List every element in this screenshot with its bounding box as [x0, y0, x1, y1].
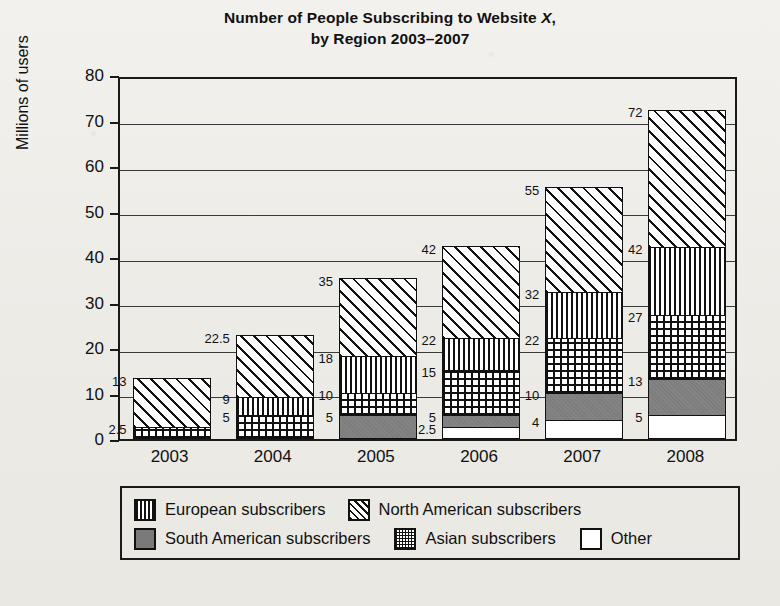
bar-2004: [236, 75, 314, 439]
value-label-2006-22: 22: [396, 333, 436, 348]
gridline: [120, 215, 735, 216]
legend-item-asian[interactable]: Asian subscribers: [394, 528, 555, 550]
legend-label-southamerican: South American subscribers: [165, 529, 370, 548]
y-axis-tick-80: 80: [58, 66, 104, 86]
bar-2003: [133, 75, 211, 439]
bar-segment-2008-northamerican: [648, 110, 726, 248]
gridline: [120, 306, 735, 307]
value-label-2007-22: 22: [499, 333, 539, 348]
legend-row-2: South American subscribersAsian subscrib…: [134, 524, 726, 553]
x-axis-tick-2008: 2008: [634, 447, 737, 467]
y-axis-tick-50: 50: [58, 203, 104, 223]
y-axis-tick-40: 40: [58, 248, 104, 268]
value-label-2007-4: 4: [499, 415, 539, 430]
chart-legend: European subscribersNorth American subsc…: [120, 486, 740, 560]
value-label-2003-13: 13: [87, 374, 127, 389]
legend-label-other: Other: [611, 529, 652, 548]
x-axis-tick-2006: 2006: [428, 447, 531, 467]
legend-row-1: European subscribersNorth American subsc…: [134, 495, 726, 524]
legend-label-european: European subscribers: [165, 500, 326, 519]
y-axis-tick-30: 30: [58, 294, 104, 314]
value-label-2005-5: 5: [293, 410, 333, 425]
legend-item-northamerican[interactable]: North American subscribers: [348, 499, 582, 521]
legend-swatch-other-icon: [580, 528, 602, 550]
legend-item-southamerican[interactable]: South American subscribers: [134, 528, 370, 550]
value-label-2006-15: 15: [396, 365, 436, 380]
value-label-2005-18: 18: [293, 351, 333, 366]
x-axis-tick-2004: 2004: [221, 447, 324, 467]
gridline: [120, 261, 735, 262]
y-axis-tick-20: 20: [58, 339, 104, 359]
value-label-2008-5: 5: [602, 410, 642, 425]
bar-2005: [339, 75, 417, 439]
value-label-2007-10: 10: [499, 388, 539, 403]
y-axis-tick-70: 70: [58, 112, 104, 132]
value-label-2006-42: 42: [396, 242, 436, 257]
y-axis-title: Millions of users: [14, 35, 32, 150]
value-label-2004-9: 9: [190, 392, 230, 407]
legend-swatch-european-icon: [134, 499, 156, 521]
bar-segment-2008-other: [648, 415, 726, 439]
bar-segment-2008-southamerican: [648, 378, 726, 416]
value-label-2004-5: 5: [190, 410, 230, 425]
bar-2008: [648, 75, 726, 439]
bar-segment-2008-asian: [648, 315, 726, 380]
gridline: [120, 352, 735, 353]
value-label-2008-72: 72: [602, 105, 642, 120]
legend-swatch-northamerican-icon: [348, 499, 370, 521]
bar-segment-2007-northamerican: [545, 187, 623, 293]
value-label-2007-32: 32: [499, 287, 539, 302]
legend-item-other[interactable]: Other: [580, 528, 652, 550]
value-label-2006-5: 5: [396, 410, 436, 425]
value-label-2008-27: 27: [602, 310, 642, 325]
legend-swatch-southamerican-icon: [134, 528, 156, 550]
x-axis-tick-2005: 2005: [324, 447, 427, 467]
value-label-2005-35: 35: [293, 274, 333, 289]
value-label-2004-22.5: 22.5: [190, 331, 230, 346]
y-axis-tick-60: 60: [58, 157, 104, 177]
bar-2006: [442, 75, 520, 439]
legend-swatch-asian-icon: [394, 528, 416, 550]
value-label-2003-2.5: 2.5: [87, 422, 127, 437]
bar-segment-2008-european: [648, 246, 726, 316]
legend-label-asian: Asian subscribers: [425, 529, 555, 548]
legend-label-northamerican: North American subscribers: [379, 500, 582, 519]
gridline: [120, 170, 735, 171]
x-axis-tick-2003: 2003: [118, 447, 221, 467]
x-axis-tick-2007: 2007: [531, 447, 634, 467]
value-label-2005-10: 10: [293, 388, 333, 403]
legend-item-european[interactable]: European subscribers: [134, 499, 326, 521]
value-label-2008-13: 13: [602, 374, 642, 389]
plot-area: [118, 77, 737, 441]
value-label-2008-42: 42: [602, 242, 642, 257]
gridline: [120, 124, 735, 125]
bar-segment-2003-asian: [133, 426, 211, 439]
value-label-2007-55: 55: [499, 183, 539, 198]
